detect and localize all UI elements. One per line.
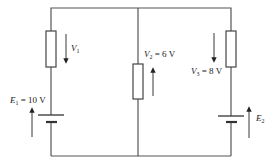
label-e2: E2 xyxy=(256,114,265,124)
wire-top xyxy=(51,8,231,31)
label-v2: V2 = 6 V xyxy=(144,50,175,60)
battery-e1 xyxy=(38,115,64,122)
resistor-r3 xyxy=(226,31,236,67)
battery-e2 xyxy=(218,116,244,122)
label-v3: V3 = 8 V xyxy=(191,67,222,77)
label-e1: E1 = 10 V xyxy=(10,96,46,106)
label-v1: V1 xyxy=(71,44,80,54)
circuit-diagram xyxy=(0,0,277,167)
resistor-r2 xyxy=(133,64,143,99)
resistor-r1 xyxy=(46,31,56,67)
